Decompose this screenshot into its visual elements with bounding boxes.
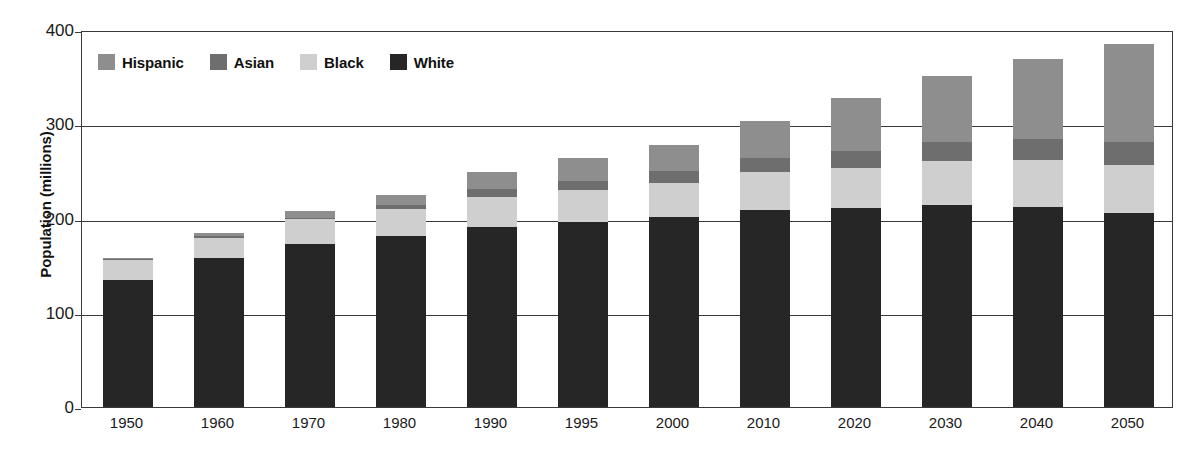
x-tick-label-2040: 2040 — [1002, 414, 1072, 431]
bar-group-1995[interactable] — [558, 30, 608, 407]
bar-segment-1960-hispanic[interactable] — [194, 233, 244, 237]
legend-swatch-white — [390, 54, 407, 70]
bar-segment-2020-hispanic[interactable] — [831, 98, 881, 151]
bar-group-2010[interactable] — [740, 30, 790, 407]
y-tick-label-200: 200 — [26, 211, 74, 228]
bar-segment-2050-white[interactable] — [1104, 213, 1154, 407]
bar-segment-2040-black[interactable] — [1013, 160, 1063, 207]
bar-segment-2020-asian[interactable] — [831, 151, 881, 168]
y-tick-label-400: 400 — [26, 22, 74, 39]
x-tick-label-2020: 2020 — [820, 414, 890, 431]
bar-segment-1950-asian[interactable] — [103, 259, 153, 260]
bar-group-2050[interactable] — [1104, 30, 1154, 407]
x-tick-label-1980: 1980 — [365, 414, 435, 431]
bar-segment-2030-hispanic[interactable] — [922, 76, 972, 142]
bar-group-1990[interactable] — [467, 30, 517, 407]
bar-segment-2020-white[interactable] — [831, 208, 881, 407]
bar-group-1970[interactable] — [285, 30, 335, 407]
plot-area — [81, 31, 1173, 408]
bar-segment-1970-hispanic[interactable] — [285, 211, 335, 218]
bar-segment-2040-white[interactable] — [1013, 207, 1063, 407]
y-tickmark-400 — [75, 32, 81, 33]
y-axis-tick-labels: 4003002001000 — [26, 0, 74, 449]
legend-item-black[interactable]: Black — [300, 54, 364, 71]
bar-segment-1960-asian[interactable] — [194, 236, 244, 238]
bar-segment-2010-white[interactable] — [740, 210, 790, 407]
y-tickmark-300 — [75, 126, 81, 127]
bar-segment-1980-asian[interactable] — [376, 205, 426, 209]
bar-group-1950[interactable] — [103, 30, 153, 407]
bar-segment-2000-white[interactable] — [649, 217, 699, 407]
bar-group-2030[interactable] — [922, 30, 972, 407]
bar-group-2040[interactable] — [1013, 30, 1063, 407]
x-axis-tick-labels: 1950196019701980199019952000201020202030… — [81, 414, 1173, 440]
bar-segment-1995-black[interactable] — [558, 190, 608, 222]
legend-item-asian[interactable]: Asian — [210, 54, 274, 71]
legend-swatch-hispanic — [98, 54, 115, 70]
bar-segment-2050-asian[interactable] — [1104, 142, 1154, 165]
bar-segment-2030-black[interactable] — [922, 161, 972, 205]
bar-segment-1990-hispanic[interactable] — [467, 172, 517, 189]
bar-group-1980[interactable] — [376, 30, 426, 407]
bar-segment-1990-asian[interactable] — [467, 189, 517, 197]
bar-segment-1950-white[interactable] — [103, 280, 153, 407]
bar-segment-1970-asian[interactable] — [285, 218, 335, 220]
bar-segment-1990-white[interactable] — [467, 227, 517, 407]
bar-segment-1980-black[interactable] — [376, 209, 426, 236]
y-tick-label-100: 100 — [26, 305, 74, 322]
legend-swatch-black — [300, 54, 317, 70]
x-tick-label-1950: 1950 — [92, 414, 162, 431]
stacked-bar-chart: Population (millions) 4003002001000 1950… — [0, 0, 1185, 449]
bar-segment-1995-white[interactable] — [558, 222, 608, 407]
bar-segment-2020-black[interactable] — [831, 168, 881, 209]
x-tick-label-1960: 1960 — [183, 414, 253, 431]
legend-swatch-asian — [210, 54, 227, 70]
bar-segment-1950-black[interactable] — [103, 260, 153, 280]
bar-group-1960[interactable] — [194, 30, 244, 407]
bar-segment-2050-hispanic[interactable] — [1104, 44, 1154, 142]
legend-label-white: White — [414, 54, 454, 71]
bar-segment-2010-black[interactable] — [740, 172, 790, 210]
bar-segment-2010-hispanic[interactable] — [740, 121, 790, 159]
legend-label-hispanic: Hispanic — [122, 54, 184, 71]
bar-segment-2040-hispanic[interactable] — [1013, 59, 1063, 139]
legend-label-black: Black — [324, 54, 364, 71]
bar-segment-1970-white[interactable] — [285, 244, 335, 407]
bar-group-2020[interactable] — [831, 30, 881, 407]
legend-item-hispanic[interactable]: Hispanic — [98, 54, 184, 71]
legend-item-white[interactable]: White — [390, 54, 454, 71]
bar-segment-2000-hispanic[interactable] — [649, 145, 699, 171]
bar-segment-2030-asian[interactable] — [922, 142, 972, 161]
bar-segment-1980-white[interactable] — [376, 236, 426, 407]
y-tickmark-0 — [75, 409, 81, 410]
bar-group-2000[interactable] — [649, 30, 699, 407]
bar-segment-2040-asian[interactable] — [1013, 139, 1063, 160]
x-tick-label-2050: 2050 — [1093, 414, 1163, 431]
y-tickmark-200 — [75, 221, 81, 222]
x-tick-label-1990: 1990 — [456, 414, 526, 431]
x-tick-label-1995: 1995 — [547, 414, 617, 431]
bar-segment-2010-asian[interactable] — [740, 158, 790, 172]
bar-segment-1990-black[interactable] — [467, 197, 517, 227]
bar-segment-1960-black[interactable] — [194, 238, 244, 258]
x-tick-label-2000: 2000 — [638, 414, 708, 431]
x-tick-label-2030: 2030 — [911, 414, 981, 431]
bar-segment-1980-hispanic[interactable] — [376, 195, 426, 205]
chart-legend: HispanicAsianBlackWhite — [98, 52, 480, 72]
bar-segment-1995-asian[interactable] — [558, 181, 608, 190]
bar-segment-1970-black[interactable] — [285, 219, 335, 244]
bar-segment-2030-white[interactable] — [922, 205, 972, 407]
bar-segment-1960-white[interactable] — [194, 258, 244, 407]
bar-segment-1950-hispanic[interactable] — [103, 258, 153, 259]
bar-series-container — [82, 32, 1172, 407]
legend-label-asian: Asian — [234, 54, 274, 71]
y-tickmark-100 — [75, 315, 81, 316]
x-tick-label-2010: 2010 — [729, 414, 799, 431]
bar-segment-2050-black[interactable] — [1104, 165, 1154, 213]
x-tick-label-1970: 1970 — [274, 414, 344, 431]
bar-segment-1995-hispanic[interactable] — [558, 158, 608, 181]
bar-segment-2000-asian[interactable] — [649, 171, 699, 182]
y-tick-label-0: 0 — [26, 399, 74, 416]
bar-segment-2000-black[interactable] — [649, 183, 699, 217]
y-tick-label-300: 300 — [26, 116, 74, 133]
